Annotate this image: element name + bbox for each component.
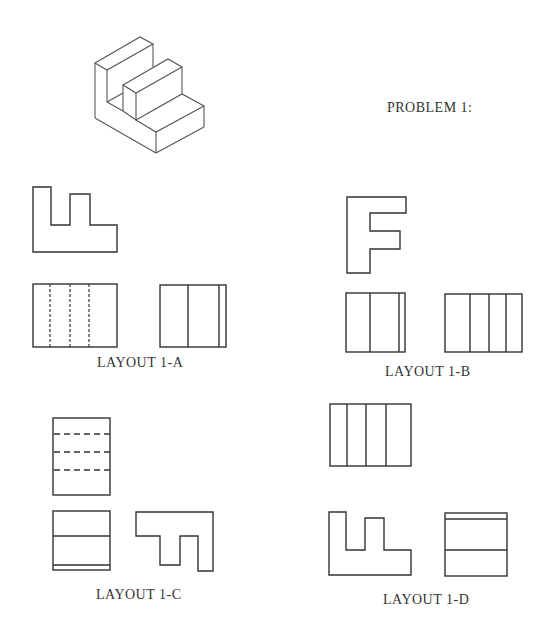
layout-1a-drawing xyxy=(33,187,226,347)
layout-1c-drawing xyxy=(53,418,213,571)
drawing-canvas xyxy=(0,0,549,636)
layout-1d-side-view xyxy=(445,513,507,576)
layout-1c-front-view xyxy=(53,511,110,570)
layout-1b-label: LAYOUT 1-B xyxy=(385,364,471,380)
layout-1c-label: LAYOUT 1-C xyxy=(96,587,182,603)
isometric-view xyxy=(95,37,204,153)
layout-1c-side-view xyxy=(136,512,213,571)
layout-1d-label: LAYOUT 1-D xyxy=(383,592,469,608)
layout-1a-side-view xyxy=(160,285,226,347)
layout-1d-front-view xyxy=(329,512,411,575)
layout-1b-side-view xyxy=(445,294,522,352)
problem-title: PROBLEM 1: xyxy=(387,100,473,116)
layout-1a-label: LAYOUT 1-A xyxy=(97,355,183,371)
layout-1a-front-view xyxy=(33,284,117,347)
layout-1b-drawing xyxy=(346,197,522,352)
layout-1d-drawing xyxy=(329,404,507,576)
layout-1d-top-view xyxy=(330,404,411,466)
layout-1a-top-view xyxy=(33,187,117,252)
layout-1c-top-view xyxy=(53,418,110,495)
layout-1b-front-view xyxy=(346,293,405,352)
layout-1b-top-view xyxy=(347,197,406,273)
